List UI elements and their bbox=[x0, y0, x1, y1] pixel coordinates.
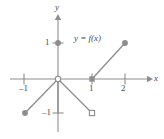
closed-point-at-x-one bbox=[89, 76, 94, 81]
closed-point-upper-right-end bbox=[122, 40, 128, 46]
x-tick-label-1: 1 bbox=[89, 84, 94, 93]
x-tick-label-neg1: –1 bbox=[19, 84, 28, 93]
y-axis-label: y bbox=[55, 3, 59, 12]
open-point-origin bbox=[55, 76, 60, 81]
x-axis-label: x bbox=[154, 74, 158, 83]
branch-right-segment bbox=[58, 79, 92, 113]
plot-canvas bbox=[0, 0, 164, 139]
graph-figure: x y –1 1 2 1 –1 y = f(x) bbox=[0, 0, 164, 139]
y-tick-label-neg1: –1 bbox=[42, 108, 51, 117]
y-axis-arrowhead bbox=[55, 14, 61, 20]
branch-upper-segment bbox=[92, 43, 125, 79]
x-axis-arrowhead bbox=[147, 76, 153, 82]
function-annotation-label: y = f(x) bbox=[74, 34, 101, 43]
closed-point-on-y-axis bbox=[55, 40, 61, 46]
x-tick-label-2: 2 bbox=[121, 84, 126, 93]
closed-point-left-end bbox=[22, 110, 28, 116]
y-tick-label-1: 1 bbox=[45, 38, 50, 47]
open-point-right-end bbox=[89, 110, 94, 115]
